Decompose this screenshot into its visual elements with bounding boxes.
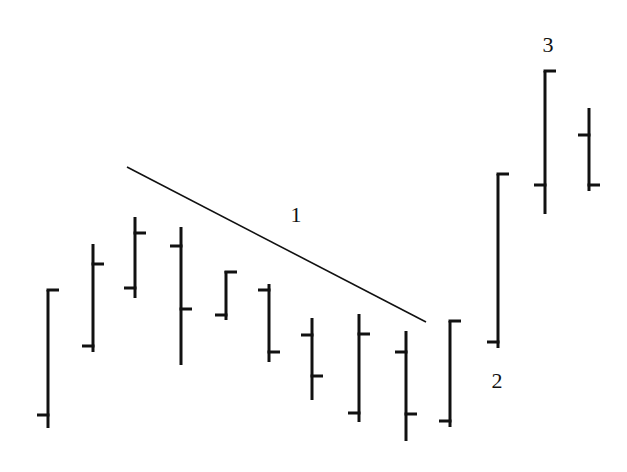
price-bar [82,244,104,352]
price-bar [534,71,556,214]
price-bar [301,318,323,400]
annotation-label-2: 2 [492,368,503,393]
annotation-label-3: 3 [543,32,554,57]
price-bar [124,217,146,298]
ohlc-chart: 1 2 3 [0,0,627,472]
price-bar [487,174,509,348]
price-bar [439,321,461,427]
annotation-label-1: 1 [291,202,302,227]
price-bar [348,314,370,422]
price-bar [37,290,59,428]
price-bar [170,227,192,365]
price-bar [395,331,417,441]
price-bars [37,71,600,441]
price-bar [578,108,600,191]
price-bar [215,271,237,320]
price-bar [258,284,280,362]
